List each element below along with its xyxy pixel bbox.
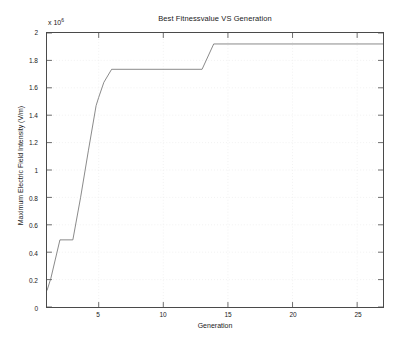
y-tick-label: 1.2 <box>29 139 42 146</box>
x-tick-label: 10 <box>159 311 166 318</box>
y-tick-label: 1.6 <box>29 84 42 91</box>
y-tick-label: 0.6 <box>29 222 42 229</box>
x-tick-label: 25 <box>354 311 361 318</box>
series-polyline <box>47 44 383 291</box>
y-tick-label: 1.8 <box>29 56 42 63</box>
y-tick-label: 1 <box>34 167 42 174</box>
chart-title: Best Fitnessvalue VS Generation <box>46 14 384 23</box>
data-series-line <box>47 33 383 307</box>
y-axis-title: Maximum Electric Field Intensity (V/m) <box>17 66 24 266</box>
y-tick-label: 0.8 <box>29 194 42 201</box>
x-tick-label: 5 <box>96 311 100 318</box>
plot-area <box>46 32 384 308</box>
y-tick-label: 0.4 <box>29 249 42 256</box>
x-tick-label: 20 <box>289 311 296 318</box>
y-axis-exponent-value: 6 <box>61 17 64 23</box>
y-axis-exponent-prefix: x 10 <box>48 19 61 26</box>
y-tick-label: 1.4 <box>29 111 42 118</box>
y-tick-label: 2 <box>34 29 42 36</box>
y-tick-label: 0 <box>34 305 42 312</box>
x-axis-tick-labels: 510152025 <box>46 308 384 322</box>
y-tick-label: 0.2 <box>29 277 42 284</box>
chart-figure: Best Fitnessvalue VS Generation x 106 00… <box>0 0 404 347</box>
x-axis-title: Generation <box>46 322 384 329</box>
x-tick-label: 15 <box>224 311 231 318</box>
y-axis-exponent-label: x 106 <box>48 17 64 26</box>
